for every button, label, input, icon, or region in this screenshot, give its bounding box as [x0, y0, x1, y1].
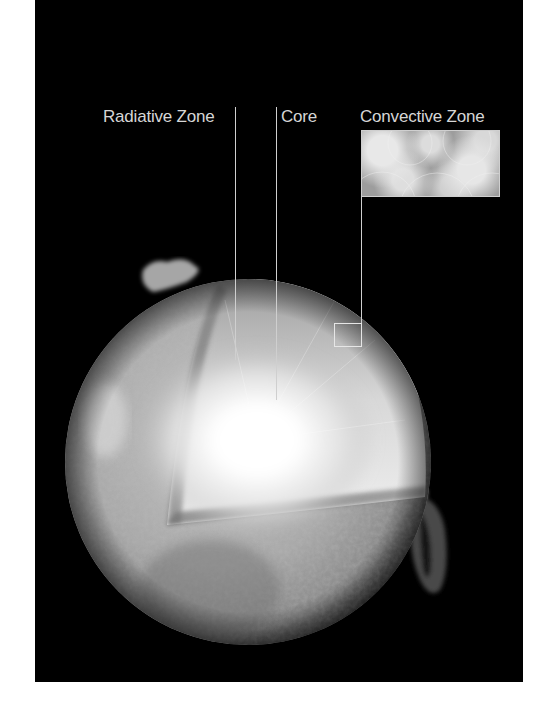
- label-core: Core: [281, 108, 317, 125]
- solar-prominence-top: [142, 259, 198, 292]
- label-convective-zone: Convective Zone: [360, 108, 485, 125]
- label-radiative-zone: Radiative Zone: [103, 108, 215, 125]
- leader-line-convective-zone: [361, 196, 362, 324]
- leader-line-core: [276, 107, 277, 400]
- convection-cells-texture: [362, 131, 500, 197]
- leader-line-radiative-zone: [235, 107, 236, 360]
- sun-illustration: [35, 0, 523, 682]
- convective-zone-inset: [361, 130, 500, 197]
- diagram-panel: Radiative Zone Core Convective Zone: [35, 0, 523, 682]
- convective-zone-marker: [334, 323, 362, 347]
